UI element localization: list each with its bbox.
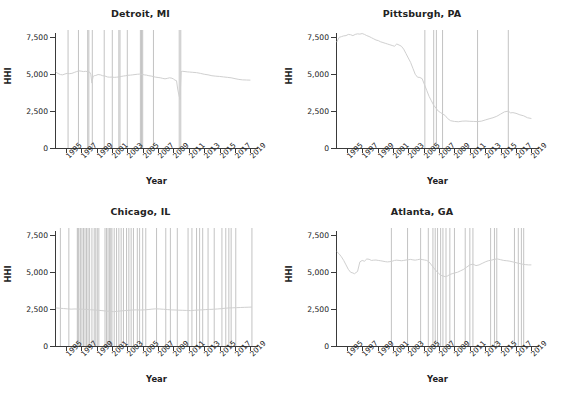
figure-grid: Detroit, MI 02,5005,0007,500 HHI Year 19… [0,0,563,395]
plot-area [336,30,536,148]
chart-panel-chicago: Chicago, IL 02,5005,0007,500 HHI Year 19… [0,198,281,395]
y-tick-label: 7,500 [26,231,48,240]
y-tick-label: 2,500 [26,107,48,116]
y-axis-labels: 02,5005,0007,500 [281,198,329,395]
y-axis-title: HHI [3,265,13,282]
x-axis-title: Year [55,374,258,384]
y-tick-label: 0 [324,144,329,153]
y-tick-mark [50,235,55,236]
y-tick-label: 5,000 [26,268,48,277]
y-tick-mark [50,346,55,347]
y-tick-label: 5,000 [26,70,48,79]
chart-panel-atlanta: Atlanta, GA 02,5005,0007,500 HHI Year 19… [281,198,563,395]
y-tick-mark [331,272,336,273]
y-tick-label: 0 [43,342,48,351]
y-tick-mark [50,272,55,273]
x-axis-title: Year [336,374,539,384]
y-tick-label: 7,500 [26,33,48,42]
y-tick-mark [331,148,336,149]
y-axis-labels: 02,5005,0007,500 [0,198,48,395]
y-tick-label: 2,500 [307,305,329,314]
chart-panel-pittsburgh: Pittsburgh, PA 02,5005,0007,500 HHI Year… [281,0,563,198]
y-tick-label: 5,000 [307,268,329,277]
y-tick-mark [331,111,336,112]
y-tick-label: 0 [324,342,329,351]
chart-panel-detroit: Detroit, MI 02,5005,0007,500 HHI Year 19… [0,0,281,198]
y-tick-mark [331,37,336,38]
y-tick-label: 7,500 [307,33,329,42]
y-axis-labels: 02,5005,0007,500 [281,0,329,198]
x-axis-title: Year [55,176,258,186]
y-tick-mark [50,111,55,112]
plot-area [55,30,255,148]
y-tick-mark [50,309,55,310]
y-axis-title: HHI [3,67,13,84]
y-axis-title: HHI [284,67,294,84]
y-tick-label: 5,000 [307,70,329,79]
plot-svg [55,228,255,346]
x-axis-title: Year [336,176,539,186]
y-tick-label: 7,500 [307,231,329,240]
y-tick-label: 0 [43,144,48,153]
y-tick-mark [50,37,55,38]
plot-area [336,228,536,346]
y-axis-title: HHI [284,265,294,282]
y-tick-mark [331,309,336,310]
y-tick-label: 2,500 [307,107,329,116]
y-tick-mark [331,346,336,347]
plot-svg [336,228,536,346]
y-tick-mark [50,74,55,75]
y-axis-labels: 02,5005,0007,500 [0,0,48,198]
plot-svg [55,30,255,148]
series-line [337,252,532,277]
plot-area [55,228,255,346]
plot-svg [336,30,536,148]
y-tick-label: 2,500 [26,305,48,314]
y-tick-mark [50,148,55,149]
y-tick-mark [331,235,336,236]
y-tick-mark [331,74,336,75]
